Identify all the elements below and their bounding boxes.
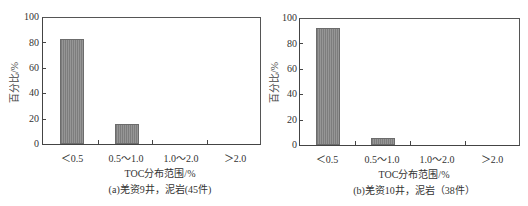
- x-tick-mark: [98, 140, 99, 144]
- y-tick-mark: [300, 94, 303, 95]
- chart-panel-b: 百分比/% 100 80 60 40 20 0 ＜0.5 0.5～1.0 1.0…: [264, 0, 528, 206]
- x-category-gt-2.0: ＞2.0: [208, 150, 262, 165]
- plot-area: [42, 17, 261, 145]
- x-category-lt-0.5: ＜0.5: [300, 151, 354, 166]
- x-category-lt-0.5: ＜0.5: [45, 150, 99, 165]
- y-tick-100: 100: [275, 13, 297, 23]
- bar-0.5-1.0: [371, 138, 395, 145]
- x-tick-mark: [465, 141, 466, 145]
- bar-lt-0.5: [60, 39, 84, 144]
- y-axis-label: 百分比/%: [266, 53, 281, 113]
- y-tick-0: 0: [17, 139, 39, 149]
- y-tick-100: 100: [17, 12, 39, 22]
- chart-caption: (b)羌资10井，泥岩（38件）: [334, 182, 494, 197]
- x-category-0.5-1.0: 0.5～1.0: [99, 150, 153, 165]
- x-category-0.5-1.0: 0.5～1.0: [355, 151, 409, 166]
- y-tick-mark: [43, 93, 46, 94]
- x-category-gt-2.0: ＞2.0: [465, 151, 519, 166]
- x-tick-mark: [207, 140, 208, 144]
- y-tick-20: 20: [275, 115, 297, 125]
- y-tick-0: 0: [275, 140, 297, 150]
- bar-0.5-1.0: [115, 124, 139, 144]
- y-tick-80: 80: [275, 39, 297, 49]
- y-tick-20: 20: [17, 114, 39, 124]
- bar-lt-0.5: [316, 28, 340, 145]
- y-tick-60: 60: [275, 64, 297, 74]
- chart-panel-a: 百分比/% 100 80 60 40 20 0 ＜0.5 0.5～1.0 1.0…: [0, 0, 264, 206]
- x-tick-mark: [410, 141, 411, 145]
- y-tick-mark: [300, 120, 303, 121]
- y-tick-mark: [43, 119, 46, 120]
- x-axis-label: TOC分布范围/%: [100, 165, 220, 180]
- x-category-1.0-2.0: 1.0～2.0: [410, 151, 464, 166]
- x-tick-mark: [355, 141, 356, 145]
- x-category-1.0-2.0: 1.0～2.0: [154, 150, 208, 165]
- plot-area: [299, 18, 520, 146]
- chart-caption: (a)羌资9井，泥岩(45件): [80, 181, 240, 196]
- x-tick-mark: [152, 140, 153, 144]
- y-tick-mark: [43, 68, 46, 69]
- y-tick-mark: [300, 69, 303, 70]
- y-tick-mark: [300, 43, 303, 44]
- y-tick-60: 60: [17, 63, 39, 73]
- y-tick-40: 40: [275, 89, 297, 99]
- x-axis-label: TOC分布范围/%: [354, 166, 474, 181]
- y-tick-40: 40: [17, 88, 39, 98]
- y-tick-80: 80: [17, 38, 39, 48]
- y-axis-label: 百分比/%: [6, 53, 21, 113]
- y-tick-mark: [43, 42, 46, 43]
